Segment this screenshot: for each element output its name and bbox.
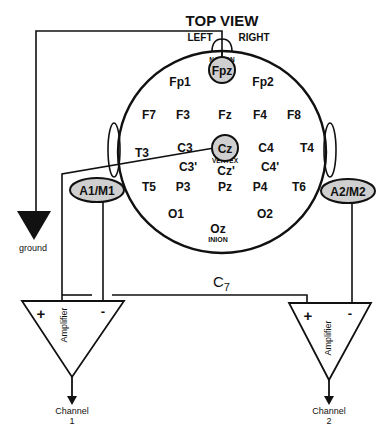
electrode-c4: C4 — [258, 141, 274, 155]
diagram-title: TOP VIEW — [186, 12, 260, 29]
electrode-p3: P3 — [176, 180, 191, 194]
channel-1-label: Channel — [55, 406, 89, 416]
electrode-t5: T5 — [142, 180, 156, 194]
electrode-c3-prime: C3' — [179, 160, 197, 174]
amplifier-1-label: Amplifier — [59, 307, 69, 342]
channel-2-label: Channel — [312, 406, 346, 416]
electrode-pz: Pz — [218, 180, 232, 194]
electrode-fz: Fz — [218, 108, 231, 122]
electrode-fp2: Fp2 — [252, 75, 274, 89]
inion-label: INION — [208, 236, 227, 243]
amplifier-2-plus: + — [304, 307, 313, 324]
eeg-montage-diagram: TOP VIEW LEFT RIGHT ground NASION VERTEX… — [0, 0, 387, 430]
electrode-f8: F8 — [287, 108, 301, 122]
amplifier-1: + - Amplifier Channel 1 — [22, 301, 124, 426]
arrow-down-icon — [67, 396, 77, 405]
amplifier-2-label: Amplifier — [323, 320, 333, 355]
electrode-oz: Oz — [210, 222, 225, 236]
c7-label: C7 — [213, 273, 230, 293]
electrode-fpz: Fpz — [212, 64, 233, 78]
channel-2-number: 2 — [326, 416, 331, 426]
electrode-t6: T6 — [292, 180, 306, 194]
reference-a1: A1/M1 — [79, 184, 115, 198]
amplifier-1-minus: - — [101, 304, 105, 319]
electrode-o1: O1 — [168, 207, 184, 221]
c7-wire — [112, 295, 307, 303]
electrode-cz: Cz — [218, 142, 233, 156]
amplifier-1-plus: + — [37, 305, 46, 322]
electrode-p4: P4 — [253, 180, 268, 194]
electrode-t3: T3 — [135, 146, 149, 160]
ground-icon — [17, 211, 51, 240]
ground-label: ground — [19, 243, 47, 253]
right-label: RIGHT — [238, 32, 269, 43]
electrode-t4: T4 — [300, 141, 314, 155]
electrode-f7: F7 — [142, 108, 156, 122]
left-label: LEFT — [188, 32, 213, 43]
reference-a2: A2/M2 — [330, 185, 366, 199]
amplifier-2: + - Amplifier Channel 2 — [289, 303, 371, 426]
channel-1-number: 1 — [69, 416, 74, 426]
ground-wire — [36, 31, 222, 211]
electrode-fp1: Fp1 — [169, 75, 191, 89]
electrode-f3: F3 — [176, 108, 190, 122]
amplifier-2-minus: - — [348, 306, 352, 321]
electrode-cz-prime: Cz' — [217, 164, 235, 178]
electrode-c4-prime: C4' — [261, 160, 279, 174]
electrode-o2: O2 — [257, 207, 273, 221]
electrode-f4: F4 — [253, 108, 267, 122]
electrode-c3: C3 — [177, 141, 193, 155]
arrow-down-icon — [324, 396, 334, 405]
